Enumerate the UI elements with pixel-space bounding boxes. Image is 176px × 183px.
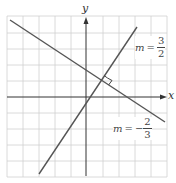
fraction-denominator: 2 xyxy=(158,48,164,59)
equals-sign: = xyxy=(124,123,132,134)
y-axis-label: y xyxy=(82,3,88,14)
slope-fraction: 3 2 xyxy=(157,36,165,59)
x-axis-arrow-icon xyxy=(160,95,167,100)
equals-sign: = xyxy=(146,42,154,53)
slope-symbol: m xyxy=(135,42,144,53)
coordinate-plane xyxy=(0,0,176,183)
right-angle-marker xyxy=(104,76,112,86)
x-axis-label: x xyxy=(168,90,174,101)
slope-label-positive: m = 3 2 xyxy=(135,36,165,59)
slope-fraction: 2 3 xyxy=(143,117,151,140)
slope-symbol: m xyxy=(113,123,122,134)
fraction-numerator: 2 xyxy=(143,117,151,129)
fraction-numerator: 3 xyxy=(157,36,165,48)
slope-label-negative: m = − 2 3 xyxy=(113,117,152,140)
fraction-denominator: 3 xyxy=(144,129,150,140)
minus-sign: − xyxy=(135,123,143,134)
y-axis-arrow-icon xyxy=(84,17,89,24)
